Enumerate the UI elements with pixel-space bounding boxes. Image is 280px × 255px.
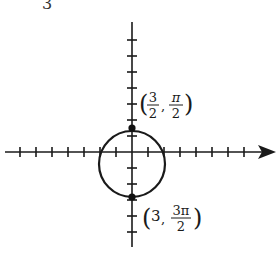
- svg-text:(: (: [139, 90, 148, 118]
- label-bottom-theta-den: 2: [177, 219, 185, 234]
- label-top-r-den: 2: [149, 106, 157, 121]
- svg-text:): ): [193, 204, 202, 232]
- svg-text:,: ,: [161, 211, 165, 226]
- label-bottom-theta-num: 3π: [173, 203, 190, 218]
- label-top-theta-num: π: [171, 90, 181, 105]
- label-top-theta-den: 2: [172, 106, 180, 121]
- label-top-point: ( 3 2 , π 2 ): [139, 90, 193, 121]
- point-top: [128, 124, 135, 131]
- label-bottom-point: ( 3 , 3π 2 ): [142, 203, 202, 234]
- point-bottom: [128, 193, 135, 200]
- svg-text:,: ,: [161, 98, 165, 113]
- axes: [5, 22, 276, 247]
- svg-text:): ): [184, 90, 193, 118]
- label-top-r-num: 3: [149, 90, 157, 105]
- polar-graph: ( 3 2 , π 2 ) ( 3 , 3π 2 ): [0, 0, 280, 255]
- svg-text:(: (: [142, 204, 151, 232]
- label-bottom-r: 3: [151, 207, 161, 225]
